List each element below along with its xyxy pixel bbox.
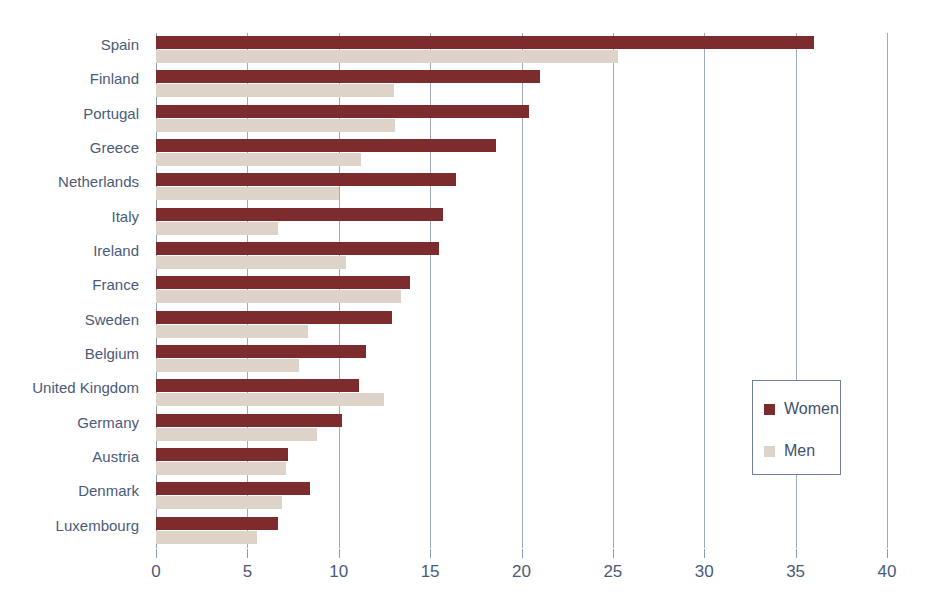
bar-group [156, 345, 887, 376]
bar-men [156, 290, 401, 303]
x-axis-label: 25 [590, 562, 636, 582]
bar-group [156, 517, 887, 548]
y-axis-label: Netherlands [0, 173, 148, 190]
x-axis-tick [430, 549, 431, 558]
legend-item-men: Men [764, 443, 815, 459]
y-axis-label: Germany [0, 414, 148, 431]
x-axis-label: 15 [407, 562, 453, 582]
legend-label-women: Women [784, 401, 839, 417]
x-axis-label: 5 [224, 562, 270, 582]
y-axis-label: Portugal [0, 105, 148, 122]
bar-group [156, 208, 887, 239]
bar-group [156, 173, 887, 204]
y-axis-labels: SpainFinlandPortugalGreeceNetherlandsIta… [0, 33, 148, 548]
y-axis-label: France [0, 276, 148, 293]
x-axis-tick [339, 549, 340, 558]
bar-men [156, 222, 278, 235]
bar-women [156, 173, 456, 186]
y-axis-label: Luxembourg [0, 517, 148, 534]
legend: Women Men [752, 380, 841, 475]
bar-women [156, 139, 496, 152]
bar-men [156, 50, 618, 63]
bar-women [156, 208, 443, 221]
x-axis-label: 35 [773, 562, 819, 582]
x-axis-label: 0 [133, 562, 179, 582]
x-axis-tick [796, 549, 797, 558]
bar-women [156, 105, 529, 118]
legend-item-women: Women [764, 401, 839, 417]
bar-group [156, 276, 887, 307]
legend-swatch-men-icon [764, 446, 775, 457]
bar-women [156, 379, 359, 392]
legend-label-men: Men [784, 443, 815, 459]
bar-group [156, 105, 887, 136]
bar-group [156, 482, 887, 513]
x-axis-label: 20 [499, 562, 545, 582]
y-axis-label: Spain [0, 36, 148, 53]
bar-women [156, 70, 540, 83]
bar-group [156, 36, 887, 67]
bar-women [156, 448, 288, 461]
x-axis-label: 30 [681, 562, 727, 582]
bar-group [156, 139, 887, 170]
bar-women [156, 242, 439, 255]
y-axis-label: United Kingdom [0, 379, 148, 396]
bar-men [156, 84, 394, 97]
bar-women [156, 276, 410, 289]
bar-group [156, 70, 887, 101]
y-axis-label: Belgium [0, 345, 148, 362]
bar-women [156, 414, 342, 427]
y-axis-label: Italy [0, 208, 148, 225]
x-axis-label: 10 [316, 562, 362, 582]
x-axis-tick [156, 549, 157, 558]
bar-men [156, 496, 282, 509]
x-axis-tick [704, 549, 705, 558]
y-axis-label: Denmark [0, 482, 148, 499]
x-axis-tick [887, 549, 888, 558]
bar-women [156, 311, 392, 324]
bar-men [156, 119, 395, 132]
bar-women [156, 36, 814, 49]
bar-men [156, 187, 339, 200]
bar-women [156, 482, 310, 495]
x-axis-tick [522, 549, 523, 558]
y-axis-label: Sweden [0, 311, 148, 328]
bar-men [156, 256, 346, 269]
bar-women [156, 517, 278, 530]
bar-group [156, 242, 887, 273]
bar-men [156, 325, 308, 338]
bar-men [156, 531, 257, 544]
bar-group [156, 311, 887, 342]
bar-men [156, 153, 361, 166]
x-axis-label: 40 [864, 562, 910, 582]
bar-men [156, 359, 299, 372]
gridline-40 [887, 33, 888, 548]
bar-men [156, 393, 384, 406]
x-axis-tick [247, 549, 248, 558]
x-axis-tick [613, 549, 614, 558]
bar-chart: SpainFinlandPortugalGreeceNetherlandsIta… [0, 0, 927, 610]
y-axis-label: Austria [0, 448, 148, 465]
y-axis-label: Ireland [0, 242, 148, 259]
bar-men [156, 428, 317, 441]
legend-swatch-women-icon [764, 404, 775, 415]
chart-title [0, 0, 927, 4]
y-axis-label: Greece [0, 139, 148, 156]
y-axis-label: Finland [0, 70, 148, 87]
bar-women [156, 345, 366, 358]
bar-men [156, 462, 286, 475]
